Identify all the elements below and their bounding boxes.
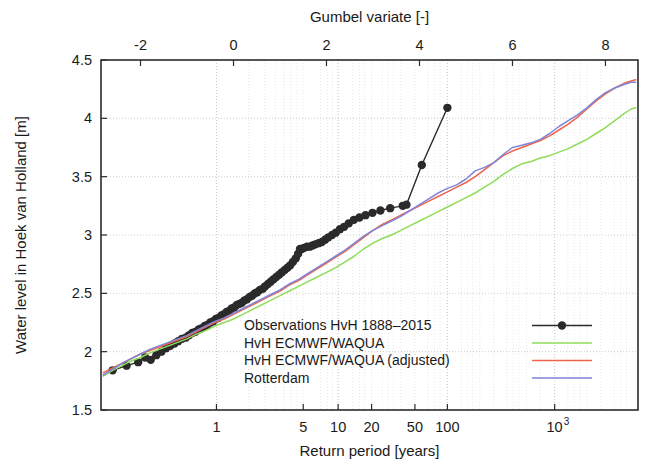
- legend-label-0: Observations HvH 1888–2015: [244, 317, 432, 333]
- data-point: [402, 200, 410, 208]
- y-tick-label: 3: [84, 227, 92, 243]
- x-tick-label: 1: [212, 419, 220, 435]
- y-tick-label: 2.5: [72, 285, 92, 301]
- gumbel-return-period-chart: 15102050100103 -202468 1.522.533.544.5 R…: [0, 0, 665, 462]
- legend-marker-0: [558, 321, 566, 329]
- y-axis-title: Water level in Hoek van Holland [m]: [12, 116, 29, 354]
- y-tick-label: 2: [84, 344, 92, 360]
- top-axis-title: Gumbel variate [-]: [310, 8, 429, 25]
- x-axis-title: Return period [years]: [299, 442, 439, 459]
- y-tick-label: 1.5: [72, 402, 92, 418]
- data-point: [386, 204, 394, 212]
- top-tick-label: -2: [134, 37, 147, 53]
- top-tick-label: 2: [322, 37, 330, 53]
- x-tick-label: 10: [330, 419, 346, 435]
- x-tick-label: 100: [435, 419, 459, 435]
- x-tick-label: 10: [547, 419, 563, 435]
- data-point: [418, 161, 426, 169]
- x-tick-label: 5: [299, 419, 307, 435]
- legend-label-3: Rotterdam: [244, 370, 309, 386]
- data-point: [376, 206, 384, 214]
- x-tick-exponent: 3: [564, 416, 570, 427]
- legend-label-1: HvH ECMWF/WAQUA: [244, 335, 385, 351]
- data-point: [368, 209, 376, 217]
- data-point: [443, 104, 451, 112]
- top-tick-label: 6: [508, 37, 516, 53]
- top-tick-label: 8: [601, 37, 609, 53]
- y-tick-label: 4: [84, 110, 92, 126]
- top-tick-label: 0: [229, 37, 237, 53]
- legend-label-2: HvH ECMWF/WAQUA (adjusted): [244, 352, 450, 368]
- y-tick-label: 3.5: [72, 169, 92, 185]
- y-tick-label: 4.5: [72, 52, 92, 68]
- top-tick-label: 4: [415, 37, 423, 53]
- x-tick-label: 20: [364, 419, 380, 435]
- x-tick-label: 50: [407, 419, 423, 435]
